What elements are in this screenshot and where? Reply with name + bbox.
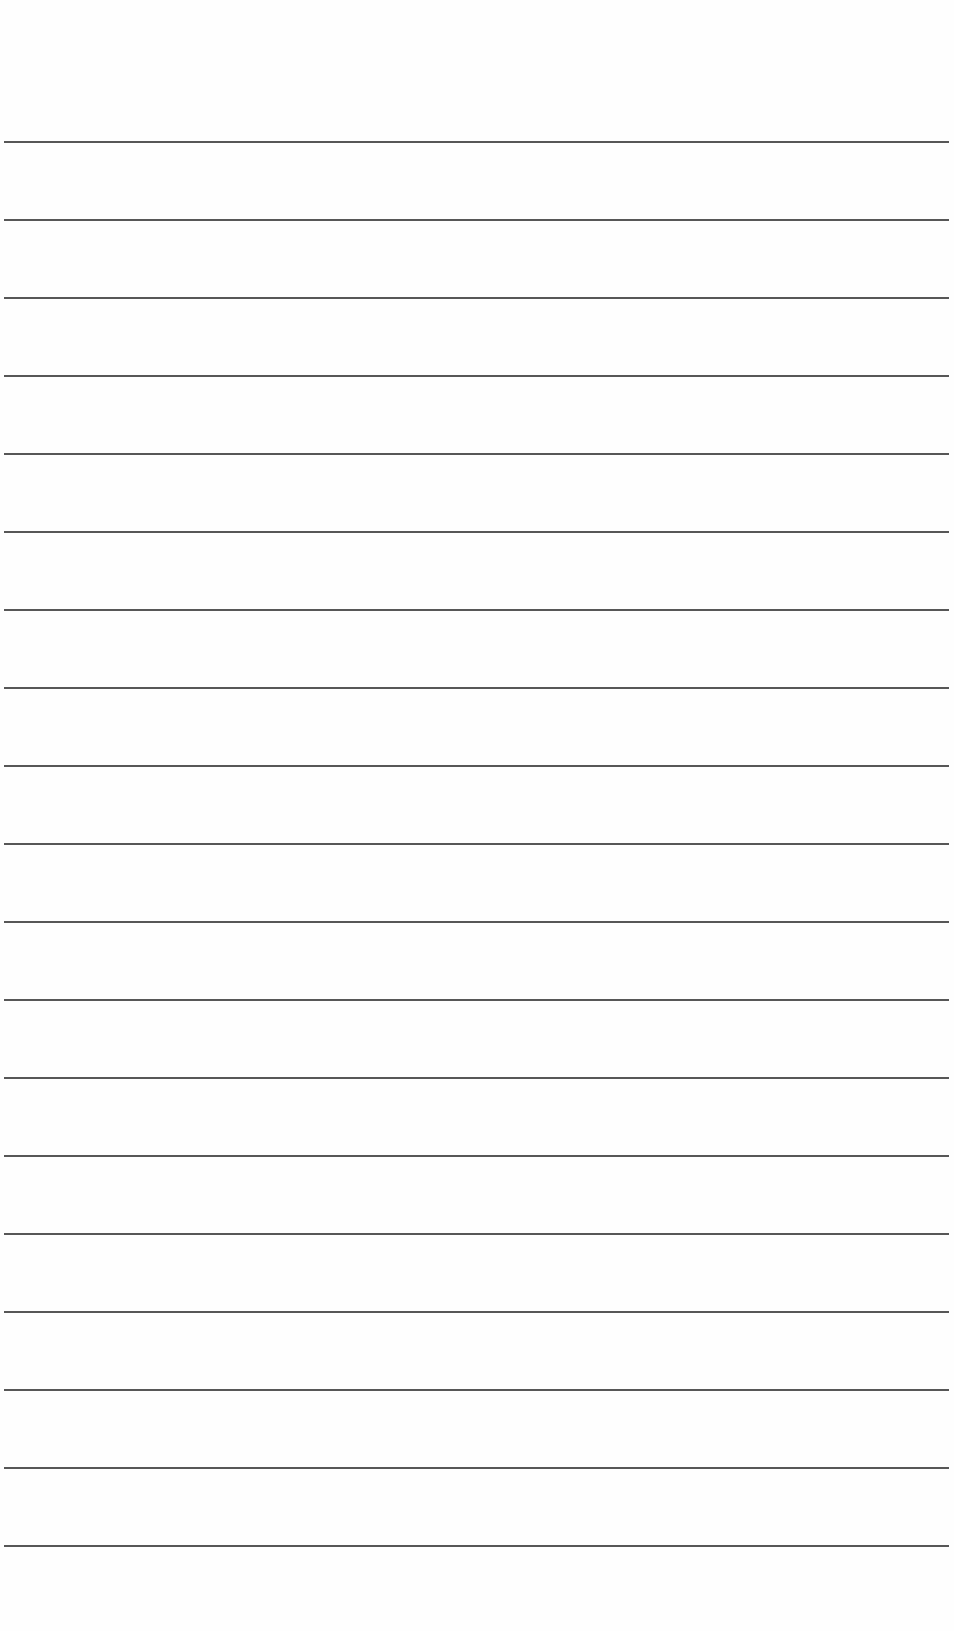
ruled-line xyxy=(4,297,949,299)
ruled-line xyxy=(4,1389,949,1391)
ruled-line xyxy=(4,531,949,533)
ruled-line xyxy=(4,843,949,845)
lined-paper-page xyxy=(0,0,954,1631)
ruled-line xyxy=(4,1545,949,1547)
ruled-line xyxy=(4,687,949,689)
ruled-line xyxy=(4,1077,949,1079)
ruled-line xyxy=(4,765,949,767)
ruled-line xyxy=(4,609,949,611)
ruled-line xyxy=(4,1155,949,1157)
ruled-line xyxy=(4,453,949,455)
ruled-line xyxy=(4,375,949,377)
ruled-line xyxy=(4,1311,949,1313)
ruled-line xyxy=(4,999,949,1001)
ruled-line xyxy=(4,141,949,143)
ruled-line xyxy=(4,1233,949,1235)
ruled-line xyxy=(4,219,949,221)
ruled-line xyxy=(4,921,949,923)
ruled-line xyxy=(4,1467,949,1469)
